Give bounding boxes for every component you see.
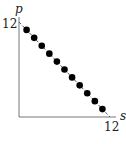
data-point xyxy=(54,58,61,65)
data-point xyxy=(84,90,91,97)
x-tick-label: 12 xyxy=(104,121,119,133)
data-point xyxy=(92,98,99,105)
data-point xyxy=(76,82,83,89)
y-tick-label: 12 xyxy=(2,18,17,30)
data-point xyxy=(46,50,53,57)
data-point xyxy=(69,74,76,81)
data-point xyxy=(23,27,30,34)
x-axis-label: s xyxy=(120,110,126,122)
y-axis-label: p xyxy=(15,3,23,15)
data-points xyxy=(23,27,105,113)
data-point xyxy=(38,42,45,49)
data-point xyxy=(99,106,106,113)
axes xyxy=(19,17,116,117)
data-point xyxy=(61,66,68,73)
data-point xyxy=(31,35,38,42)
